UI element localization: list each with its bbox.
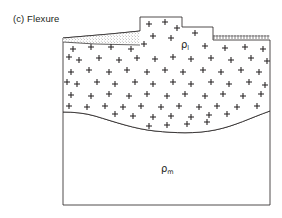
mantle-density-subscript: m (167, 168, 173, 176)
erosion-surface-hatch (214, 35, 270, 39)
flexure-diagram: ρl ρm (0, 0, 282, 218)
sediment-wedge (63, 31, 140, 44)
crust-load-layer (63, 17, 270, 133)
figure-flexure-panel: (c) Flexure (0, 0, 282, 218)
load-density-subscript: l (187, 44, 189, 52)
